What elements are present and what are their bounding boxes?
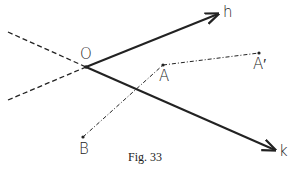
label-h: h xyxy=(223,5,233,20)
point-b xyxy=(81,135,84,138)
label-aprime: A′ xyxy=(253,57,266,72)
segment-a-aprime xyxy=(163,53,259,65)
label-o: O xyxy=(80,47,92,62)
segment-b-a xyxy=(83,65,163,137)
ray-h xyxy=(86,14,218,67)
dashed-extension-lower xyxy=(8,67,86,100)
label-k: k xyxy=(279,144,288,159)
figure-caption: Fig. 33 xyxy=(128,151,162,163)
point-o xyxy=(84,65,88,69)
geometry-canvas xyxy=(0,0,292,171)
dashed-extension-upper xyxy=(8,32,86,67)
diagram-figure: O A A′ B h k Fig. 33 xyxy=(0,0,292,171)
label-b: B xyxy=(79,142,89,157)
label-a: A xyxy=(159,69,169,84)
